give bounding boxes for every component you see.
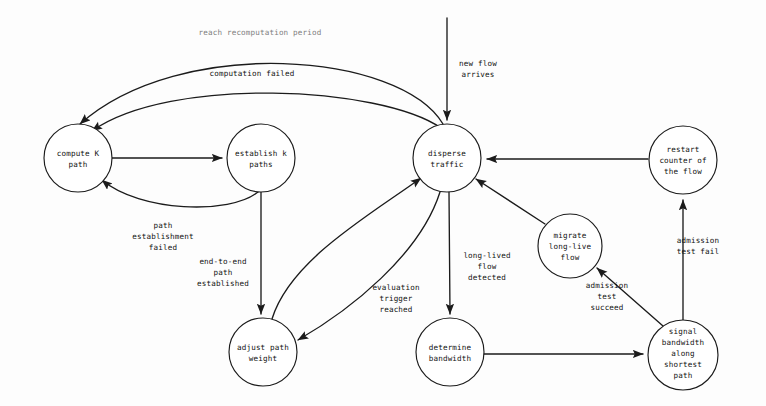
state-diagram-canvas: compute K path establish k paths dispers… (0, 0, 766, 406)
node-determine-bandwidth[interactable]: determine bandwidth (416, 318, 484, 386)
node-compute-k-path-line-0: compute K (57, 149, 100, 158)
node-adjust-path-weight[interactable]: adjust path weight (229, 318, 297, 386)
node-disperse-traffic-line-1: traffic (430, 160, 463, 169)
node-restart-counter-line-0: restart (666, 145, 699, 154)
node-migrate-line-0: migrate (553, 231, 586, 240)
edge-label-computation-failed: computation failed (210, 69, 295, 78)
edge-label-path-establishment-failed-line-2: failed (149, 243, 177, 252)
edge-label-evaluation-trigger-line-1: trigger (379, 294, 412, 303)
node-signal-bandwidth-line-4: path (674, 371, 693, 380)
node-signal-bandwidth-along-shortest-path[interactable]: signal bandwidth along shortest path (648, 320, 718, 390)
edge-label-admission-succeed-line-2: succeed (590, 303, 623, 312)
node-compute-k-path-shape[interactable] (44, 124, 112, 192)
node-migrate-line-1: long-live (549, 242, 592, 251)
node-compute-k-path[interactable]: compute K path (44, 124, 112, 192)
node-disperse-traffic[interactable]: disperse traffic (413, 124, 481, 192)
nodes-layer: compute K path establish k paths dispers… (44, 124, 718, 390)
edge-label-path-establishment-failed-line-0: path (154, 221, 173, 230)
edge-label-end-to-end-line-0: end-to-end (199, 257, 246, 266)
edge-label-end-to-end-line-1: path (214, 268, 233, 277)
node-signal-bandwidth-line-1: bandwidth (662, 338, 705, 347)
node-signal-bandwidth-line-3: shortest (664, 360, 702, 369)
edge-label-admission-fail-line-1: test fail (677, 247, 720, 256)
node-adjust-path-weight-shape[interactable] (229, 318, 297, 386)
node-adjust-path-weight-line-0: adjust path (237, 343, 289, 352)
edge-label-admission-succeed-line-0: admission (586, 281, 629, 290)
edge-long-lived-flow-detected (449, 192, 450, 314)
node-migrate-line-2: flow (561, 253, 580, 262)
node-signal-bandwidth-line-0: signal (669, 327, 697, 336)
edge-label-admission-fail-line-0: admission (677, 236, 720, 245)
node-establish-k-paths-shape[interactable] (227, 124, 295, 192)
edge-label-path-establishment-failed-line-1: establishment (132, 232, 193, 241)
node-compute-k-path-line-1: path (69, 160, 88, 169)
edge-label-end-to-end-line-2: established (197, 279, 249, 288)
edge-label-evaluation-trigger-line-0: evaluation (372, 283, 419, 292)
edge-label-new-flow-arrives-line-0: new flow (459, 59, 497, 68)
node-establish-k-paths-line-1: paths (249, 160, 273, 169)
node-determine-bandwidth-shape[interactable] (416, 318, 484, 386)
node-establish-k-paths-line-0: establish k (235, 149, 287, 158)
node-signal-bandwidth-line-2: along (671, 349, 695, 358)
diagram-svg: compute K path establish k paths dispers… (0, 0, 766, 406)
node-establish-k-paths[interactable]: establish k paths (227, 124, 295, 192)
node-restart-counter-line-1: counter of (659, 156, 706, 165)
edge-label-long-lived-flow-line-0: long-lived (463, 251, 510, 260)
node-disperse-traffic-shape[interactable] (413, 124, 481, 192)
edge-label-long-lived-flow-line-1: flow (478, 262, 497, 271)
edge-migrate-to-disperse (476, 179, 545, 224)
edge-label-admission-succeed-line-1: test (598, 292, 617, 301)
node-disperse-traffic-line-0: disperse (428, 149, 466, 158)
node-determine-bandwidth-line-1: bandwidth (429, 354, 472, 363)
node-restart-counter-of-the-flow[interactable]: restart counter of the flow (649, 126, 717, 194)
node-migrate-long-live-flow[interactable]: migrate long-live flow (538, 214, 602, 278)
edge-label-long-lived-flow-line-2: detected (468, 273, 506, 282)
edge-label-evaluation-trigger-line-2: reached (379, 305, 412, 314)
edge-path-establishment-failed (102, 180, 258, 207)
node-adjust-path-weight-line-1: weight (249, 354, 277, 363)
node-restart-counter-line-2: the flow (664, 167, 702, 176)
node-determine-bandwidth-line-0: determine (429, 343, 472, 352)
edge-label-reach-recomputation-period: reach recomputation period (199, 28, 322, 37)
edge-label-new-flow-arrives-line-1: arrives (461, 70, 494, 79)
